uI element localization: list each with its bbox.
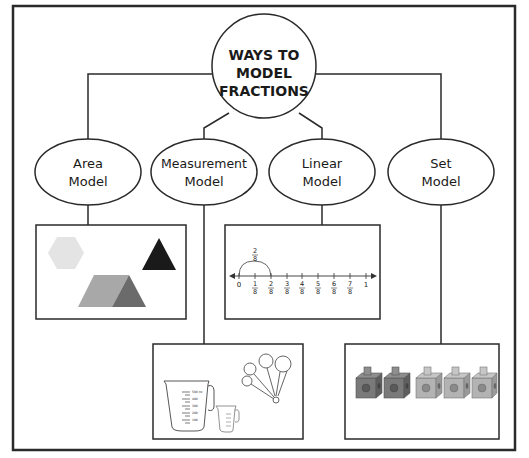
jump-label-num: 2 [253, 247, 257, 255]
svg-text:8: 8 [300, 288, 304, 296]
area-model-box [36, 225, 186, 319]
node-linear-line-1: Linear [302, 156, 343, 171]
svg-text:5: 5 [316, 280, 320, 288]
node-measurement-line-2: Model [184, 174, 223, 189]
root-line-2: MODEL [236, 65, 292, 81]
node-set: Set Model [388, 139, 494, 205]
svg-text:6: 6 [332, 280, 336, 288]
cup-mark-200: 200 [192, 411, 198, 415]
cup-mark-100: 100 [192, 418, 198, 422]
measurement-model-box: 500 ml 400 300 200 100 [153, 344, 303, 439]
jump-label-den: 8 [253, 255, 257, 263]
root-line-3: FRACTIONS [219, 83, 309, 99]
cup-mark-300: 300 [192, 404, 198, 408]
cup-mark-400: 400 [192, 397, 198, 401]
cup-mark-500: 500 ml [192, 390, 203, 394]
svg-text:8: 8 [348, 288, 352, 296]
svg-text:8: 8 [316, 288, 320, 296]
svg-text:8: 8 [253, 288, 257, 296]
set-model-box [345, 344, 499, 439]
node-measurement: Measurement Model [151, 139, 257, 205]
node-area-line-2: Model [68, 174, 107, 189]
svg-text:4: 4 [300, 280, 304, 288]
tick-label-0: 0 [237, 281, 241, 289]
node-set-line-2: Model [421, 174, 460, 189]
root-node: WAYS TO MODEL FRACTIONS [212, 14, 316, 118]
node-set-line-1: Set [430, 156, 451, 171]
tick-label-1: 1 [364, 281, 368, 289]
svg-text:8: 8 [269, 288, 273, 296]
fraction-models-diagram: WAYS TO MODEL FRACTIONS Area Model Measu… [0, 0, 529, 458]
node-linear-line-2: Model [302, 174, 341, 189]
svg-text:7: 7 [348, 280, 352, 288]
svg-text:8: 8 [285, 288, 289, 296]
node-linear: Linear Model [269, 139, 375, 205]
root-line-1: WAYS TO [229, 47, 300, 63]
svg-text:1: 1 [253, 280, 257, 288]
node-area: Area Model [35, 139, 141, 205]
svg-text:3: 3 [285, 280, 289, 288]
svg-text:2: 2 [269, 280, 273, 288]
svg-text:8: 8 [332, 288, 336, 296]
linear-model-box: 2 8 0 1 1 8 2 8 3 [225, 225, 380, 319]
node-area-line-1: Area [73, 156, 103, 171]
node-measurement-line-1: Measurement [161, 156, 247, 171]
